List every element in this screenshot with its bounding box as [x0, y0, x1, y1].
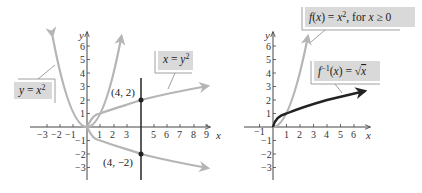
point-4-2	[139, 98, 144, 103]
label-f-inverse: f−1(x) = √x	[311, 61, 380, 93]
svg-text:1: 1	[97, 129, 102, 140]
left-graph: −3 −2 −1 1 2 3 5 6 7 8 9 1 2	[14, 29, 210, 180]
label-y-equals-x-squared: y = x2	[14, 65, 55, 103]
svg-text:3: 3	[80, 81, 85, 92]
y-tick-labels: 1 2 3 4 5 6 −1 −2 −3	[261, 41, 272, 174]
svg-text:6: 6	[351, 129, 356, 140]
svg-text:9: 9	[204, 129, 209, 140]
svg-text:2: 2	[80, 95, 85, 106]
svg-text:−3: −3	[75, 162, 86, 173]
point-label-upper: (4, 2)	[111, 86, 135, 99]
left-x-axis-label: x	[215, 129, 221, 141]
diagram-canvas: −3 −2 −1 1 2 3 5 6 7 8 9 1 2	[0, 0, 422, 193]
svg-text:−2: −2	[75, 149, 86, 160]
svg-text:3: 3	[266, 81, 271, 92]
label-x-equals-y-squared: x = y2	[155, 51, 193, 89]
x-tick-labels: −3 −2 −1 1 2 3 5 6 7 8 9	[37, 129, 209, 140]
svg-text:8: 8	[191, 129, 196, 140]
y-axis-label: y	[264, 29, 270, 41]
svg-text:6: 6	[80, 41, 85, 52]
svg-text:−1: −1	[261, 135, 272, 146]
svg-text:−3: −3	[37, 129, 48, 140]
curve-f-x-squared	[273, 36, 308, 127]
svg-text:4: 4	[266, 68, 271, 79]
svg-text:1: 1	[284, 129, 289, 140]
svg-text:5: 5	[266, 54, 271, 65]
svg-text:−2: −2	[51, 129, 62, 140]
svg-text:7: 7	[177, 129, 182, 140]
svg-text:4: 4	[324, 129, 329, 140]
point-4-neg2	[139, 152, 144, 157]
svg-text:5: 5	[80, 54, 85, 65]
svg-text:1: 1	[80, 108, 85, 119]
svg-text:f(x) = x2, for x ≥ 0: f(x) = x2, for x ≥ 0	[309, 10, 392, 24]
x-axis-label: x	[365, 129, 371, 141]
svg-text:2: 2	[110, 129, 115, 140]
svg-text:y = x2: y = x2	[18, 83, 45, 97]
svg-text:1: 1	[266, 108, 271, 119]
svg-text:−3: −3	[261, 162, 272, 173]
right-graph: −1 1 2 3 4 5 6 x x 1 2 3 4 5 6	[215, 7, 415, 180]
svg-text:6: 6	[266, 41, 271, 52]
label-f-of-x: f(x) = x2, for x ≥ 0	[302, 7, 415, 42]
svg-text:2: 2	[266, 95, 271, 106]
svg-text:6: 6	[164, 129, 169, 140]
point-label-lower: (4, −2)	[103, 156, 133, 169]
svg-text:−2: −2	[261, 149, 272, 160]
parabola-x-equals-y-squared-upper	[87, 86, 208, 127]
y-axis-label: y	[78, 29, 84, 41]
svg-text:5: 5	[151, 129, 156, 140]
svg-text:2: 2	[297, 129, 302, 140]
svg-text:x = y2: x = y2	[162, 52, 189, 66]
svg-text:3: 3	[124, 129, 129, 140]
y-tick-labels: 1 2 3 4 5 6 −1 −2 −3	[75, 41, 86, 174]
svg-text:−1: −1	[75, 135, 86, 146]
curve-f-inverse-sqrt	[273, 91, 365, 127]
svg-text:4: 4	[80, 68, 85, 79]
svg-text:3: 3	[311, 129, 316, 140]
svg-text:5: 5	[338, 129, 343, 140]
